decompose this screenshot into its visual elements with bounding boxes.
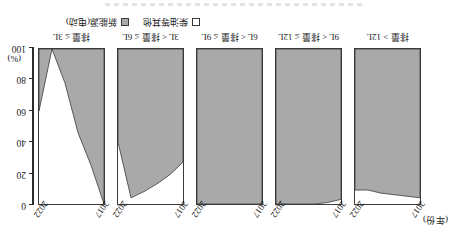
y-axis-tick bbox=[29, 47, 34, 48]
legend-label-other-fuel: 柴油等其他 bbox=[143, 16, 188, 29]
chart-figure: (年份) 020406080100 (%) 排量 ≤ 3L201720223L … bbox=[0, 0, 462, 242]
legend-item-new-energy: 新能源(电动) bbox=[66, 16, 129, 29]
area-series-new-energy bbox=[118, 49, 183, 198]
x-axis-year-end-label: 2022 bbox=[111, 199, 130, 219]
panel-area-plot bbox=[355, 49, 420, 204]
y-axis-unit-label: (%) bbox=[8, 54, 22, 64]
x-axis-year-end-label: 2022 bbox=[348, 199, 367, 219]
year-axis-caption: (年份) bbox=[423, 214, 448, 227]
panel-area-plot bbox=[118, 49, 183, 204]
y-axis-tick-label: 20 bbox=[17, 169, 27, 179]
chart-panel bbox=[275, 48, 342, 205]
y-axis-tick bbox=[29, 141, 34, 142]
y-axis-tick-label: 40 bbox=[17, 138, 27, 148]
y-axis-tick bbox=[29, 110, 34, 111]
y-axis-tick bbox=[29, 204, 34, 205]
figure-rotator: (年份) 020406080100 (%) 排量 ≤ 3L201720223L … bbox=[0, 0, 462, 242]
y-axis-tick-label: 80 bbox=[17, 75, 27, 85]
area-series-new-energy bbox=[276, 49, 341, 204]
legend: 柴油等其他 新能源(电动) bbox=[66, 16, 200, 29]
y-axis-tick-label: 60 bbox=[17, 106, 27, 116]
legend-swatch-open-icon bbox=[192, 19, 200, 27]
panel-category-label: 排量 > 12L bbox=[344, 32, 431, 42]
panel-area-plot bbox=[276, 49, 341, 204]
chart-panel bbox=[354, 48, 421, 205]
chart-panel bbox=[196, 48, 263, 205]
y-axis-tick-label: 100 bbox=[12, 44, 26, 54]
y-axis-tick bbox=[29, 173, 34, 174]
clipped-title-rule bbox=[104, 3, 362, 6]
y-axis-tick bbox=[29, 78, 34, 79]
panel-category-label: 3L < 排量 ≤ 6L bbox=[107, 32, 194, 42]
panel-area-plot bbox=[197, 49, 262, 204]
area-series-new-energy bbox=[197, 49, 262, 204]
panel-area-plot bbox=[39, 49, 104, 204]
area-series-new-energy bbox=[355, 49, 420, 198]
panel-category-label: 排量 ≤ 3L bbox=[28, 32, 115, 42]
panel-category-label: 9L < 排量 ≤ 12L bbox=[265, 32, 352, 42]
x-axis-year-end-label: 2022 bbox=[269, 199, 288, 219]
panel-category-label: 6L < 排量 ≤ 9L bbox=[186, 32, 273, 42]
y-axis-line bbox=[32, 48, 34, 205]
x-axis-year-end-label: 2022 bbox=[32, 199, 51, 219]
legend-item-other-fuel: 柴油等其他 bbox=[143, 16, 200, 29]
legend-swatch-solid-icon bbox=[121, 19, 129, 27]
chart-panel bbox=[117, 48, 184, 205]
chart-panel bbox=[38, 48, 105, 205]
area-series-new-energy bbox=[39, 49, 104, 204]
x-axis-year-end-label: 2022 bbox=[190, 199, 209, 219]
y-axis-tick-label: 0 bbox=[21, 201, 26, 211]
legend-label-new-energy: 新能源(电动) bbox=[66, 16, 117, 29]
